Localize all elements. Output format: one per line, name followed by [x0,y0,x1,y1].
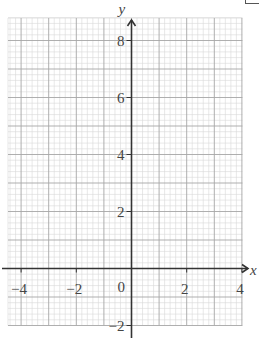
x-tick-label: 4 [236,281,244,297]
x-tick-label: −4 [11,281,27,297]
minor-grid-lines [8,18,242,326]
origin-label: 0 [118,279,126,295]
axes [2,20,248,338]
y-axis-label: y [117,1,126,17]
coordinate-grid: x y 0 −4−2248642−2 [0,0,259,338]
x-tick-label: 2 [181,281,189,297]
y-tick-label: −2 [109,318,125,334]
y-tick-label: 2 [117,204,125,220]
x-axis-label: x [249,262,257,278]
y-tick-label: 4 [117,147,125,163]
y-tick-label: 8 [117,33,125,49]
y-tick-label: 6 [117,90,125,106]
x-tick-label: −2 [66,281,82,297]
